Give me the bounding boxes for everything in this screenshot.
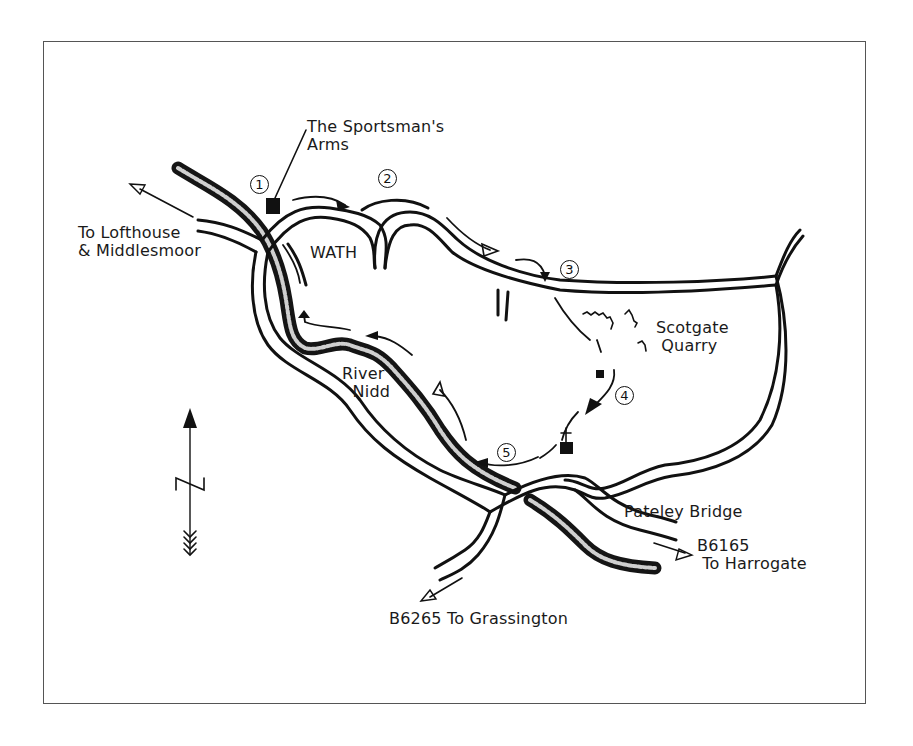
church-icon bbox=[560, 428, 573, 454]
river-nidd bbox=[178, 168, 655, 568]
route-map bbox=[0, 0, 913, 746]
waypoint-5-marker: 5 bbox=[497, 443, 516, 462]
pateley-bridge-label: Pateley Bridge bbox=[624, 503, 743, 521]
waypoint-2-marker: 2 bbox=[378, 169, 397, 188]
lofthouse-direction-label: To Lofthouse & Middlesmoor bbox=[78, 224, 201, 260]
waypoint-1-marker: 1 bbox=[250, 175, 269, 194]
waypoint-3-marker: 3 bbox=[560, 260, 579, 279]
wath-village-label: WATH bbox=[310, 244, 357, 262]
roads bbox=[198, 200, 803, 580]
sportsmans-arms-label: The Sportsman's Arms bbox=[307, 118, 444, 154]
building-icon bbox=[596, 370, 604, 378]
quarry-hatching-icon bbox=[583, 310, 646, 351]
walk-route bbox=[283, 197, 614, 468]
river-nidd-label: River Nidd bbox=[342, 365, 390, 401]
north-arrow-icon bbox=[176, 408, 204, 555]
scotgate-quarry-label: Scotgate Quarry bbox=[656, 319, 729, 355]
harrogate-direction-label: B6165 To Harrogate bbox=[697, 537, 807, 573]
building-icon bbox=[266, 130, 306, 214]
waypoint-4-marker: 4 bbox=[615, 386, 634, 405]
grassington-direction-label: B6265 To Grassington bbox=[389, 610, 568, 628]
